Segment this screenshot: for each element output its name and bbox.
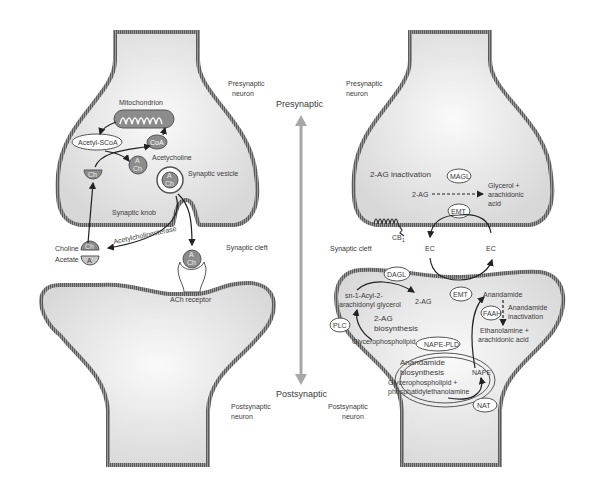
acetylcholinesterase-label: Acetylcholinesterase: [113, 225, 178, 246]
right-synaptic-cleft-label: Synaptic cleft: [330, 245, 372, 253]
acetylcholine-label: Acetycholine: [152, 154, 192, 162]
anandamide-inactivation-label: Anandamide: [508, 304, 547, 311]
2ag-biosynthesis-label-2: biosynthesis: [374, 324, 418, 333]
bound-ch: Ch: [187, 259, 196, 266]
2ag-inactivation-title: 2-AG inactivation: [370, 170, 431, 179]
acetate-a: A: [87, 257, 92, 264]
anandamide-label: Anandamide: [483, 291, 522, 298]
emt-bottom-label: EMT: [453, 291, 469, 298]
ethanolamine-label-2: arachidonic acid: [478, 336, 529, 343]
vesicle-ch: Ch: [165, 180, 174, 187]
right-postsynaptic-label: Postsynaptic: [328, 403, 368, 411]
2ag-biosynthesis-label: 2-AG: [374, 314, 393, 323]
synaptic-knob-label: Synaptic knob: [112, 209, 156, 217]
right-presynaptic-label-line2: neuron: [346, 90, 368, 97]
bound-a: A: [189, 251, 194, 258]
vesicle-a: A: [167, 172, 172, 179]
glycerophospholipid-label: Glycerophospholipid: [352, 338, 416, 346]
dagl-label: DAGL: [387, 271, 406, 278]
axis-top-label: Presynaptic: [276, 99, 324, 109]
choline-ch: Ch: [85, 243, 94, 250]
right-presynaptic-label: Presynaptic: [346, 80, 383, 88]
coa-label: CoA: [150, 139, 164, 146]
ec-right-label: EC: [486, 245, 496, 252]
plc-label: PLC: [333, 322, 347, 329]
ach-ch: Ch: [133, 165, 142, 172]
glycerol-label-2: arachidonic: [488, 191, 524, 198]
right-postsynaptic-label-line2: neuron: [342, 413, 364, 420]
emt-top-label: EMT: [451, 208, 467, 215]
ethanolamine-label: Ethanolamine +: [480, 327, 529, 334]
left-synaptic-cleft-label: Synaptic cleft: [226, 244, 268, 252]
acetyl-scoa-label: Acetyl-SCoA: [78, 139, 118, 147]
axis-bottom-label: Postsynaptic: [276, 389, 328, 399]
ach-receptor-label: ACh receptor: [170, 296, 212, 304]
ach-a: A: [135, 157, 140, 164]
sn-acyl-label-2: arachidonyl glycerol: [339, 301, 401, 309]
left-postsynaptic-neuron: [41, 283, 274, 465]
glycerol-label: Glycerol +: [488, 182, 520, 190]
left-presynaptic-label-line2: neuron: [232, 90, 254, 97]
sn-acyl-label: sn-1-Acyl-2-: [345, 292, 383, 300]
glycerol-label-3: acid: [488, 200, 501, 207]
cb1-subscript: 1: [402, 237, 405, 243]
2ag-post-label: 2-AG: [415, 298, 431, 305]
ch-label: Ch: [88, 171, 97, 178]
left-postsynaptic-label-line2: neuron: [231, 413, 253, 420]
acetate-label: Acetate: [55, 256, 79, 263]
nape-pld-label: NAPE-PLD: [424, 341, 459, 348]
glyco-pe-label: Glycerophospholipid +: [388, 379, 457, 387]
mitochondrion-label: Mitochondrion: [119, 99, 163, 106]
synapse-diagram: Presynaptic neuron Mitochondrion Acetyl-…: [0, 0, 600, 489]
synaptic-vesicle: A Ch: [157, 167, 183, 193]
anandamide-inactivation-label-2: inactivation: [508, 313, 543, 320]
anandamide-biosynthesis-label: Anandamide: [400, 358, 445, 367]
cb1-label: CB: [392, 234, 402, 241]
glyco-pe-label-2: phosphatidylethanolamine: [388, 388, 469, 396]
synaptic-vesicle-label: Synaptic vesicle: [188, 170, 238, 178]
left-postsynaptic-label: Postsynaptic: [231, 403, 271, 411]
left-presynaptic-label: Presynaptic: [228, 80, 265, 88]
nat-label: NAT: [477, 402, 491, 409]
choline-label: Choline: [55, 245, 79, 252]
anandamide-biosynthesis-label-2: biosynthesis: [400, 368, 444, 377]
nape-label: NAPE: [472, 369, 491, 376]
ec-left-label: EC: [425, 245, 435, 252]
faah-label: FAAH: [483, 310, 501, 317]
magl-label: MAGL: [450, 173, 470, 180]
2ag-label: 2-AG: [412, 191, 428, 198]
